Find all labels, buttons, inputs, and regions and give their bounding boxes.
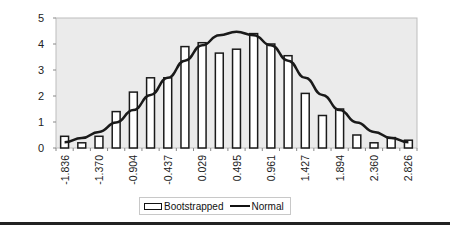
histogram-bar xyxy=(198,43,206,148)
x-tick-label: 0.029 xyxy=(196,155,208,181)
legend-label-normal: Normal xyxy=(252,201,284,212)
x-tick-label: 2.360 xyxy=(368,155,380,181)
x-tick-label: -1.836 xyxy=(59,155,71,185)
histogram-bar xyxy=(112,112,120,148)
histogram-bar xyxy=(147,78,155,148)
x-tick-label: 2.826 xyxy=(402,155,414,181)
histogram-bar xyxy=(250,34,258,148)
y-axis: 012345 xyxy=(38,12,56,154)
divider-rule xyxy=(0,222,450,225)
histogram-bar xyxy=(267,44,275,148)
bar-swatch-icon xyxy=(144,203,162,210)
x-tick-label: 0.961 xyxy=(265,155,277,181)
line-swatch-icon xyxy=(230,205,250,207)
histogram-bar xyxy=(353,135,361,148)
histogram-bar xyxy=(301,93,309,148)
histogram-bar xyxy=(370,143,378,148)
y-tick-label: 5 xyxy=(38,12,44,24)
x-tick-label: 1.894 xyxy=(334,155,346,181)
x-tick-label: -0.437 xyxy=(162,155,174,185)
x-tick-label: -0.904 xyxy=(127,155,139,185)
histogram-bar xyxy=(318,116,326,149)
y-tick-label: 4 xyxy=(38,38,44,50)
y-tick-label: 2 xyxy=(38,90,44,102)
x-axis: -1.836-1.370-0.904-0.4370.0290.4950.9611… xyxy=(56,148,417,185)
histogram-bar xyxy=(284,56,292,148)
histogram-bar xyxy=(233,49,241,148)
y-tick-label: 3 xyxy=(38,64,44,76)
x-tick-label: 1.427 xyxy=(299,155,311,181)
histogram-bar xyxy=(336,109,344,148)
chart-legend: Bootstrapped Normal xyxy=(139,197,291,215)
x-tick-label: -1.370 xyxy=(93,155,105,185)
x-tick-label: 0.495 xyxy=(231,155,243,181)
histogram-bar xyxy=(129,92,137,148)
legend-label-bootstrapped: Bootstrapped xyxy=(164,201,224,212)
y-tick-label: 0 xyxy=(38,142,44,154)
y-tick-label: 1 xyxy=(38,116,44,128)
histogram-bar xyxy=(215,53,223,148)
histogram-bar xyxy=(164,78,172,148)
histogram-bar xyxy=(78,143,86,148)
histogram-bar xyxy=(95,136,103,148)
